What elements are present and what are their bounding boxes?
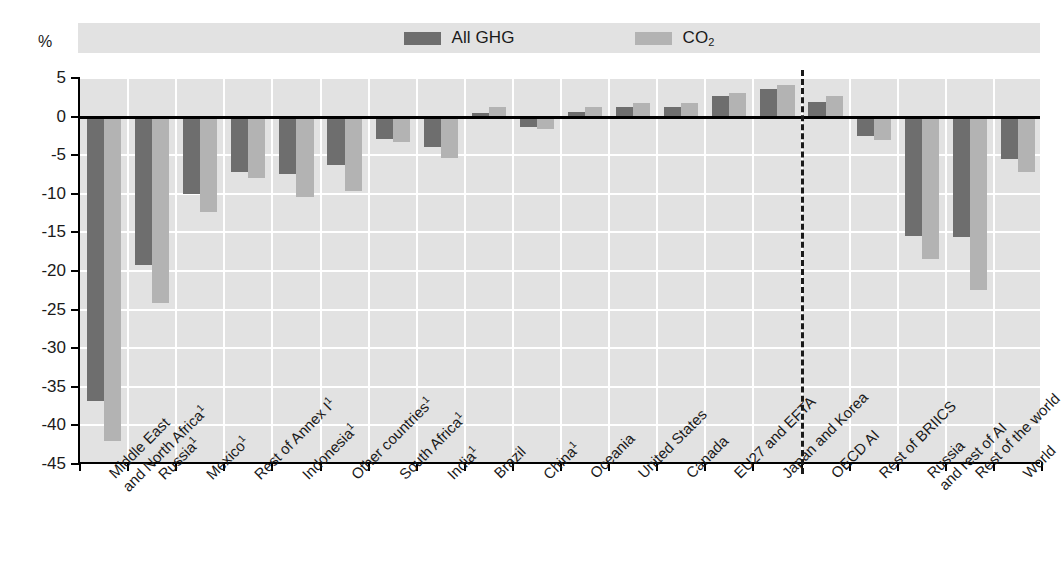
y-axis-tick-label: -30 xyxy=(41,338,66,358)
bar-all-ghg xyxy=(376,117,393,139)
y-axis-tick xyxy=(71,116,80,118)
y-axis-tick xyxy=(71,231,80,233)
bar-all-ghg xyxy=(424,117,441,147)
bar-all-ghg xyxy=(760,89,777,117)
bar-co2 xyxy=(200,117,217,212)
plot-area: 50-5-10-15-20-25-30-35-40-45 xyxy=(78,78,1040,464)
y-axis-unit-label: % xyxy=(38,33,52,51)
bar-co2 xyxy=(970,117,987,290)
panel-divider xyxy=(801,70,804,474)
y-axis-tick-label: -15 xyxy=(41,222,66,242)
bars-layer xyxy=(80,78,1040,462)
bar-co2 xyxy=(729,93,746,117)
y-axis-tick xyxy=(71,77,80,79)
y-axis-tick xyxy=(71,424,80,426)
legend-entry: CO2 xyxy=(635,28,715,48)
bar-co2 xyxy=(345,117,362,192)
bar-co2 xyxy=(777,85,794,117)
bar-all-ghg xyxy=(953,117,970,237)
y-axis-tick-label: -20 xyxy=(41,261,66,281)
bar-all-ghg xyxy=(857,117,874,136)
bar-all-ghg xyxy=(712,96,729,117)
legend-entry: All GHG xyxy=(404,28,515,48)
y-axis-tick xyxy=(71,309,80,311)
bar-co2 xyxy=(922,117,939,260)
y-axis-tick-label: -5 xyxy=(51,145,66,165)
legend-label: CO2 xyxy=(683,28,715,48)
legend-swatch-co2 xyxy=(635,32,672,45)
x-axis-category-labels: Middle Eastand North Africa1Russia1Mexic… xyxy=(0,468,1048,588)
bar-co2 xyxy=(826,96,843,117)
y-axis-tick-label: -25 xyxy=(41,300,66,320)
bar-co2 xyxy=(296,117,313,197)
legend-label: All GHG xyxy=(452,28,515,48)
y-axis-tick-label: -40 xyxy=(41,415,66,435)
y-axis-tick xyxy=(71,347,80,349)
bar-all-ghg xyxy=(327,117,344,166)
bar-all-ghg xyxy=(87,117,104,401)
bar-all-ghg xyxy=(231,117,248,173)
chart-legend: All GHGCO2 xyxy=(78,23,1040,53)
bar-co2 xyxy=(152,117,169,304)
y-axis-tick-label: 5 xyxy=(57,68,66,88)
bar-co2 xyxy=(681,103,698,117)
bar-co2 xyxy=(248,117,265,179)
bar-all-ghg xyxy=(135,117,152,265)
y-axis-tick xyxy=(71,386,80,388)
bar-all-ghg xyxy=(808,102,825,117)
bar-co2 xyxy=(874,117,891,140)
y-axis-tick-label: 0 xyxy=(57,107,66,127)
zero-baseline xyxy=(80,116,1040,119)
bar-co2 xyxy=(393,117,410,142)
bar-co2 xyxy=(441,117,458,159)
bar-co2 xyxy=(633,103,650,117)
bar-all-ghg xyxy=(1001,117,1018,159)
bar-co2 xyxy=(104,117,121,441)
y-axis-tick xyxy=(71,193,80,195)
bar-all-ghg xyxy=(905,117,922,237)
y-axis-tick xyxy=(71,270,80,272)
y-axis-tick xyxy=(71,154,80,156)
bar-all-ghg xyxy=(279,117,296,175)
y-axis-tick-label: -10 xyxy=(41,184,66,204)
y-axis-tick-label: -35 xyxy=(41,377,66,397)
legend-swatch-all-ghg xyxy=(404,32,441,45)
bar-co2 xyxy=(1018,117,1035,173)
bar-all-ghg xyxy=(183,117,200,194)
